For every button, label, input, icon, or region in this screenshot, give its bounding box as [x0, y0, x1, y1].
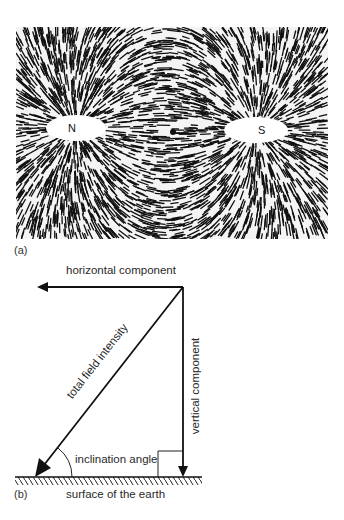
field-components-diagram: [0, 0, 344, 520]
inclination-angle-label: inclination angle: [75, 453, 157, 465]
inclination-angle-arc: [58, 448, 72, 477]
total-field-line: [44, 287, 183, 465]
horizontal-component-label: horizontal component: [66, 264, 176, 276]
ground-hatching: [15, 477, 202, 485]
horizontal-arrowhead-icon: [37, 282, 48, 292]
vertical-arrowhead-icon: [178, 466, 188, 477]
right-angle-marker: [158, 451, 183, 477]
ground-label: surface of the earth: [66, 488, 165, 500]
vertical-component-label: vertical component: [189, 338, 201, 435]
panel-label-b: (b): [14, 488, 27, 500]
total-field-arrowhead-icon: [35, 458, 51, 477]
